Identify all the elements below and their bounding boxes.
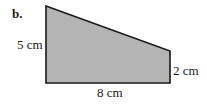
right-side-dimension-label: 2 cm (173, 64, 199, 77)
bottom-side-dimension-label: 8 cm (97, 86, 123, 99)
left-side-dimension-label: 5 cm (17, 38, 43, 51)
part-label: b. (12, 7, 22, 20)
trapezoid-diagram: b. 5 cm 2 cm 8 cm (0, 0, 207, 106)
trapezoid-polygon (46, 6, 170, 83)
